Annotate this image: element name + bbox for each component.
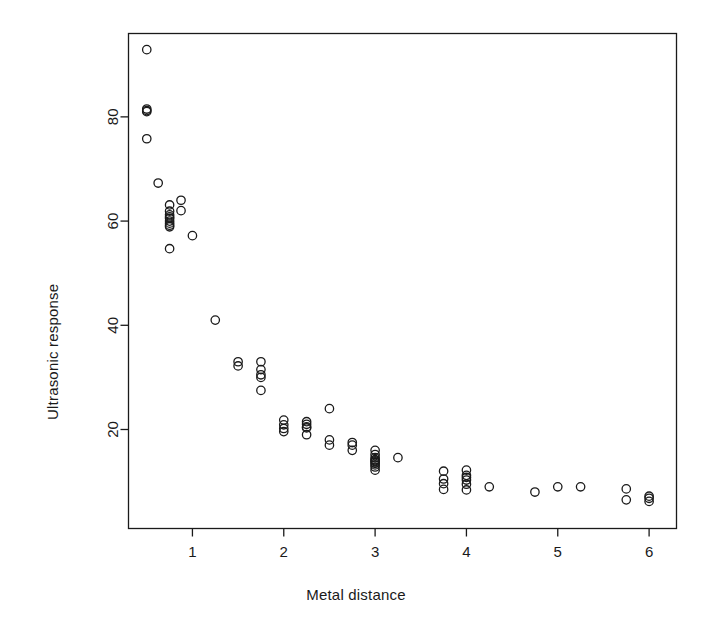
data-point xyxy=(485,483,493,491)
data-point xyxy=(154,179,162,187)
x-tick-label: 6 xyxy=(645,543,653,560)
y-axis-title: Ultrasonic response xyxy=(44,284,61,420)
plot-frame xyxy=(129,34,677,529)
data-point xyxy=(622,485,630,493)
data-point xyxy=(143,45,151,53)
data-point xyxy=(325,404,333,412)
data-point xyxy=(462,486,470,494)
y-axis-ticks: 20406080 xyxy=(104,109,129,438)
data-point xyxy=(211,316,219,324)
data-point xyxy=(177,196,185,204)
plot-canvas: 123456 20406080 xyxy=(0,0,712,644)
data-point xyxy=(531,488,539,496)
y-tick-label: 40 xyxy=(104,317,121,334)
data-point xyxy=(622,496,630,504)
y-tick-label: 20 xyxy=(104,421,121,438)
data-point xyxy=(554,483,562,491)
data-point xyxy=(325,441,333,449)
data-point xyxy=(576,483,584,491)
data-point xyxy=(348,446,356,454)
data-points-group xyxy=(143,45,654,505)
data-point xyxy=(394,453,402,461)
y-tick-label: 60 xyxy=(104,213,121,230)
x-tick-label: 1 xyxy=(188,543,196,560)
data-point xyxy=(143,135,151,143)
data-point xyxy=(165,244,173,252)
x-tick-label: 3 xyxy=(371,543,379,560)
plot-box xyxy=(129,34,677,529)
x-axis-title: Metal distance xyxy=(0,586,712,603)
data-point xyxy=(257,386,265,394)
x-tick-label: 5 xyxy=(554,543,562,560)
x-axis-ticks: 123456 xyxy=(188,529,653,560)
data-point xyxy=(439,485,447,493)
data-point xyxy=(177,206,185,214)
data-point xyxy=(439,467,447,475)
data-point xyxy=(188,231,196,239)
scatter-plot-figure: 123456 20406080 Metal distance Ultrasoni… xyxy=(0,0,712,644)
x-tick-label: 2 xyxy=(280,543,288,560)
data-point xyxy=(257,365,265,373)
y-tick-label: 80 xyxy=(104,109,121,126)
x-tick-label: 4 xyxy=(462,543,470,560)
data-point xyxy=(257,358,265,366)
